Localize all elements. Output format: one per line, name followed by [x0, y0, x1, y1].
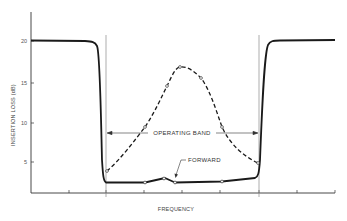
reverse-curve [107, 67, 258, 171]
y-tick-label-20: 20 [21, 38, 27, 44]
insertion-loss-chart: 20 15 10 5 INSERTION LOSS (dB) FREQUENCY… [0, 0, 347, 221]
forward-leader-arrowhead [175, 174, 179, 179]
operating-band-lines [106, 35, 259, 197]
forward-leader [176, 160, 186, 175]
reverse-markers [106, 66, 260, 173]
y-tick-label-5: 5 [24, 159, 27, 165]
y-axis-title: INSERTION LOSS (dB) [10, 84, 16, 146]
forward-curve [31, 40, 335, 183]
forward-label: FORWARD [188, 157, 221, 163]
x-axis-title: FREQUENCY [158, 206, 194, 212]
y-tick-label-10: 10 [21, 120, 27, 126]
y-tick-label-15: 15 [21, 80, 27, 86]
operating-band-label: OPERATING BAND [153, 130, 211, 136]
